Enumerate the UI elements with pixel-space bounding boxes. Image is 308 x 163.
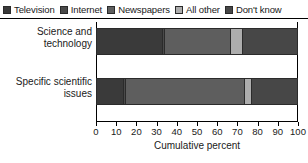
bar-segment <box>231 28 243 55</box>
bar-segment <box>96 78 124 105</box>
legend-item-3: All other <box>175 5 220 15</box>
x-axis-tick-label: 20 <box>131 126 142 137</box>
plot-area <box>96 22 298 122</box>
stacked-bar-chart: TelevisionInternetNewspapersAll otherDon… <box>0 0 308 163</box>
bar-segment <box>96 28 163 55</box>
legend-swatch-icon <box>225 6 233 14</box>
bar-segment <box>165 28 232 55</box>
category-label-line: technology <box>0 38 92 50</box>
x-axis-tick-label: 100 <box>290 126 306 137</box>
category-label-line: Specific scientific <box>0 76 92 88</box>
legend-item-4: Don't know <box>225 5 282 15</box>
chart-legend: TelevisionInternetNewspapersAll otherDon… <box>3 2 305 17</box>
legend-item-label: Internet <box>71 5 102 15</box>
category-label-science-and-technology: Science andtechnology <box>0 26 92 50</box>
x-axis-tick-label: 60 <box>212 126 223 137</box>
legend-item-1: Internet <box>60 5 102 15</box>
legend-item-0: Television <box>3 5 55 15</box>
x-axis-tick-label: 40 <box>172 126 183 137</box>
x-axis-tick-label: 80 <box>252 126 263 137</box>
legend-divider <box>0 18 308 19</box>
legend-swatch-icon <box>107 6 115 14</box>
category-label-line: Science and <box>0 26 92 38</box>
legend-swatch-icon <box>60 6 68 14</box>
bar-segment <box>243 28 298 55</box>
x-axis-tick-label: 50 <box>192 126 203 137</box>
legend-item-2: Newspapers <box>107 5 170 15</box>
legend-item-label: All other <box>186 5 220 15</box>
x-axis-tick-label: 90 <box>273 126 284 137</box>
bar-row-specific-scientific-issues <box>96 78 298 105</box>
category-label-line: issues <box>0 88 92 100</box>
category-label-specific-scientific-issues: Specific scientificissues <box>0 76 92 100</box>
legend-item-label: Television <box>14 5 55 15</box>
legend-swatch-icon <box>175 6 183 14</box>
x-axis-tick-labels: 0102030405060708090100 <box>0 126 308 138</box>
bar-segment <box>252 78 298 105</box>
x-axis-title: Cumulative percent <box>96 140 298 152</box>
legend-swatch-icon <box>3 6 11 14</box>
x-axis-tick-label: 30 <box>151 126 162 137</box>
bar-row-science-and-technology <box>96 28 298 55</box>
x-axis-tick-label: 70 <box>232 126 243 137</box>
x-axis-tick-label: 0 <box>93 126 98 137</box>
bar-segment <box>126 78 245 105</box>
x-axis-tick-label: 10 <box>111 126 122 137</box>
legend-item-label: Don't know <box>236 5 282 15</box>
legend-item-label: Newspapers <box>118 5 170 15</box>
